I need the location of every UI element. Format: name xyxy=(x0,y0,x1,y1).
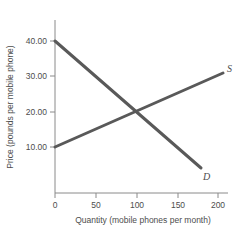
x-tick-label-100: 100 xyxy=(130,200,144,210)
x-tick-label-150: 150 xyxy=(171,200,185,210)
y-tick-label-20: 20.00 xyxy=(26,107,48,117)
demand-curve-label: D xyxy=(202,171,211,182)
supply-curve xyxy=(55,73,223,147)
y-tick-label-30: 30.00 xyxy=(26,71,48,81)
y-tick-label-40: 40.00 xyxy=(26,36,48,46)
supply-curve-label: S xyxy=(227,63,232,74)
chart-canvas: 40.00 30.00 20.00 10.00 0 50 100 150 200… xyxy=(0,0,249,230)
x-tick-label-50: 50 xyxy=(91,200,101,210)
y-axis-title: Price (pounds per mobile phone) xyxy=(5,45,15,168)
x-axis-title: Quantity (mobile phones per month) xyxy=(75,215,211,225)
x-tick-label-0: 0 xyxy=(53,200,58,210)
supply-demand-chart: 40.00 30.00 20.00 10.00 0 50 100 150 200… xyxy=(0,0,249,230)
y-tick-label-10: 10.00 xyxy=(26,142,48,152)
x-tick-label-200: 200 xyxy=(211,200,225,210)
demand-curve xyxy=(55,41,201,168)
